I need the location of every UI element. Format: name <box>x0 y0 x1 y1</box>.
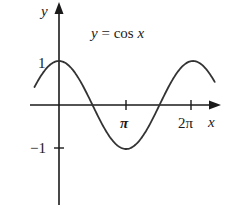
chart-title: y = cos x <box>89 25 144 41</box>
x-tick-label-2pi: 2π <box>178 115 194 131</box>
y-tick-label-minus-one: −1 <box>30 140 46 156</box>
x-tick-label-pi: π <box>120 115 129 131</box>
y-tick-label-one: 1 <box>38 55 46 71</box>
x-axis-arrow-icon <box>209 101 221 110</box>
cosine-graph: y x y = cos x 1 −1 π 2π <box>0 0 228 210</box>
y-axis-label: y <box>39 3 48 19</box>
title-lhs: y <box>89 25 98 41</box>
title-eq: = cos <box>98 25 138 41</box>
x-axis-label: x <box>207 114 215 130</box>
y-axis-arrow-icon <box>55 2 64 14</box>
title-var: x <box>136 25 144 41</box>
